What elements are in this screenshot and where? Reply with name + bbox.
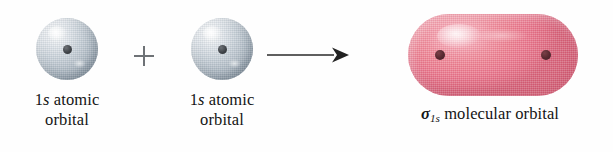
sphere-secondary-highlight-icon xyxy=(73,59,85,68)
atomic-orbital-1-label-line2: orbital xyxy=(2,110,132,130)
capsule-secondary-highlight-icon xyxy=(476,29,527,42)
right-arrow-icon xyxy=(266,44,350,66)
nucleus-dot-icon xyxy=(435,50,445,60)
sphere-highlight-icon xyxy=(48,26,67,41)
molecular-orbital-figure xyxy=(370,12,610,104)
plus-operator-icon xyxy=(130,42,158,70)
sphere-highlight-icon xyxy=(203,26,222,41)
nucleus-dot-icon xyxy=(541,50,551,60)
atomic-orbital-2-label-line1: 1s atomic xyxy=(157,90,287,110)
nucleus-dot-icon xyxy=(218,45,227,54)
s-orbital-sphere-icon xyxy=(191,18,253,80)
atomic-orbital-1-label-line1: 1s atomic xyxy=(2,90,132,110)
sigma-symbol: σ xyxy=(421,104,430,123)
orbital-combination-diagram: 1s atomic orbital 1s atomic orbital xyxy=(0,0,613,152)
atomic-orbital-1-label: 1s atomic orbital xyxy=(2,90,132,130)
sigma-molecular-orbital-icon xyxy=(408,14,578,96)
atomic-orbital-1-figure xyxy=(2,16,132,90)
atomic-orbital-2-group: 1s atomic orbital xyxy=(157,16,287,130)
sigma-subscript: 1s xyxy=(430,112,440,124)
capsule-texture-overlay xyxy=(408,14,578,96)
atomic-orbital-2-label: 1s atomic orbital xyxy=(157,90,287,130)
molecular-orbital-label-text: molecular orbital xyxy=(440,104,559,123)
s-orbital-sphere-icon xyxy=(36,18,98,80)
capsule-highlight-icon xyxy=(437,24,481,49)
molecular-orbital-group: σ1s molecular orbital xyxy=(370,12,610,128)
arrow-head xyxy=(332,48,349,63)
molecular-orbital-label: σ1s molecular orbital xyxy=(370,104,610,128)
sphere-secondary-highlight-icon xyxy=(228,59,240,68)
atomic-orbital-1-group: 1s atomic orbital xyxy=(2,16,132,130)
atomic-orbital-2-label-line2: orbital xyxy=(157,110,287,130)
nucleus-dot-icon xyxy=(63,45,72,54)
